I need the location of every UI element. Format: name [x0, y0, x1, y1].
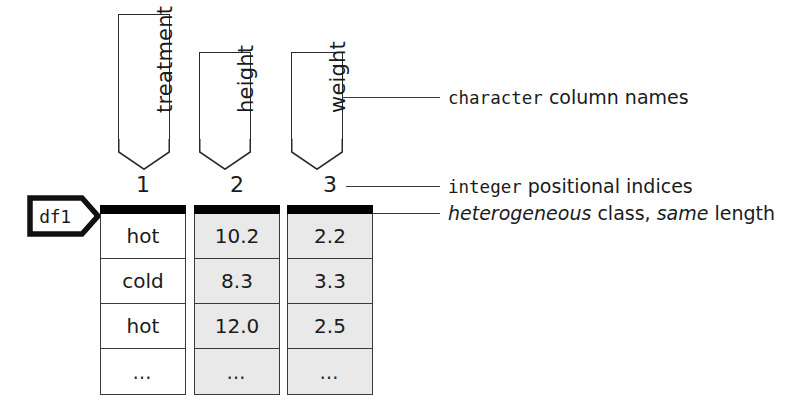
table-cell-ellipsis: …	[195, 349, 279, 394]
column-name-banner-weight: weight	[291, 52, 343, 170]
banner-body: weight	[291, 52, 343, 140]
table-cell: 12.0	[195, 304, 279, 349]
column-index-1: 1	[100, 172, 186, 198]
table-cell: 2.2	[288, 214, 372, 259]
annotation-emphasis-integer: integer	[448, 177, 522, 197]
table-cell: hot	[101, 214, 185, 259]
column-header-bar	[194, 205, 280, 214]
banner-chevron-tip-icon	[118, 139, 170, 170]
dataframe-object-tag-label: df1	[26, 194, 84, 238]
annotation-text-length: length	[714, 202, 775, 224]
table-column-height: 10.2 8.3 12.0 …	[194, 205, 280, 398]
banner-chevron-tip-icon	[199, 139, 251, 170]
annotation-text-column-names: column names	[549, 86, 689, 108]
table-cell: 10.2	[195, 214, 279, 259]
banner-label-weight: weight	[328, 41, 349, 113]
banner-label-treatment: treatment	[155, 6, 176, 113]
banner-label-height: height	[236, 45, 257, 113]
column-cells: 10.2 8.3 12.0 …	[194, 214, 280, 395]
annotation-emphasis-character: character	[448, 88, 543, 108]
column-cells: hot cold hot …	[100, 214, 186, 395]
banner-body: treatment	[118, 14, 170, 140]
annotation-positional-indices: integer positional indices	[448, 177, 693, 197]
leader-line-indices	[346, 186, 440, 187]
annotation-text-positional-indices: positional indices	[528, 175, 693, 197]
table-column-weight: 2.2 3.3 2.5 …	[287, 205, 373, 398]
column-index-3: 3	[287, 172, 373, 198]
annotation-column-names: character column names	[448, 88, 689, 108]
column-cells: 2.2 3.3 2.5 …	[287, 214, 373, 395]
column-name-banner-height: height	[199, 52, 251, 170]
annotation-italic-heterogeneous: heterogeneous	[448, 202, 591, 224]
table-column-treatment: hot cold hot …	[100, 205, 186, 398]
table-cell: hot	[101, 304, 185, 349]
column-header-bar	[287, 205, 373, 214]
column-index-2: 2	[194, 172, 280, 198]
annotation-text-class: class,	[597, 202, 650, 224]
leader-line-class-length	[373, 213, 440, 214]
dataframe-object-tag: df1	[26, 194, 102, 238]
table-cell-ellipsis: …	[288, 349, 372, 394]
table-cell: 8.3	[195, 259, 279, 304]
annotation-class-length: heterogeneous class, same length	[448, 204, 775, 223]
leader-line-column-names	[342, 97, 440, 98]
annotation-italic-same: same	[657, 202, 709, 224]
column-header-bar	[100, 205, 186, 214]
table-cell: cold	[101, 259, 185, 304]
diagram-canvas: treatment height weight	[0, 0, 807, 416]
banner-chevron-tip-icon	[291, 139, 343, 170]
table-cell: 2.5	[288, 304, 372, 349]
banner-body: height	[199, 52, 251, 140]
table-cell: 3.3	[288, 259, 372, 304]
table-cell-ellipsis: …	[101, 349, 185, 394]
column-name-banner-treatment: treatment	[118, 14, 170, 169]
